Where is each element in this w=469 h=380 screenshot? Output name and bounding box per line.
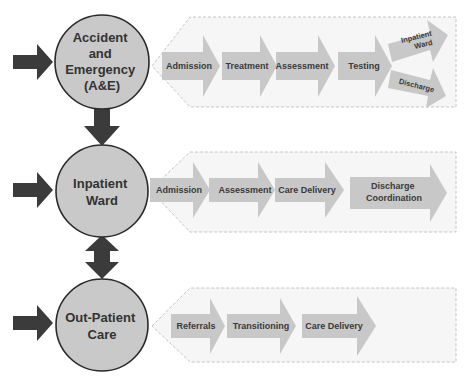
svg-text:Assessment: Assessment [218,185,271,195]
svg-text:Assessment: Assessment [275,61,328,71]
inpatient-entry-arrow-icon [13,172,53,208]
node-accident-and-emergency[interactable]: Accident and Emergency (A&E) [55,15,149,109]
node-out-patient-care[interactable]: Out-Patient Care [56,279,148,371]
svg-text:Admission: Admission [166,61,212,71]
svg-text:Transitioning: Transitioning [233,321,290,331]
node-inpatient-ward[interactable]: Inpatient Ward [56,145,148,237]
svg-text:Admission: Admission [156,185,202,195]
svg-text:Testing: Testing [348,61,379,71]
outpatient-entry-arrow-icon [13,305,53,341]
ae-entry-arrow-icon [13,44,53,80]
svg-text:Care Delivery: Care Delivery [305,321,363,331]
patient-flow-diagram: Admission Treatment Assessment Testing I… [0,0,469,380]
svg-text:Referrals: Referrals [176,321,215,331]
inpatient-outpatient-two-way-arrow-icon [85,235,119,279]
svg-text:Care Delivery: Care Delivery [278,185,336,195]
svg-text:Treatment: Treatment [225,61,268,71]
ae-to-inpatient-down-arrow-icon [84,104,120,146]
